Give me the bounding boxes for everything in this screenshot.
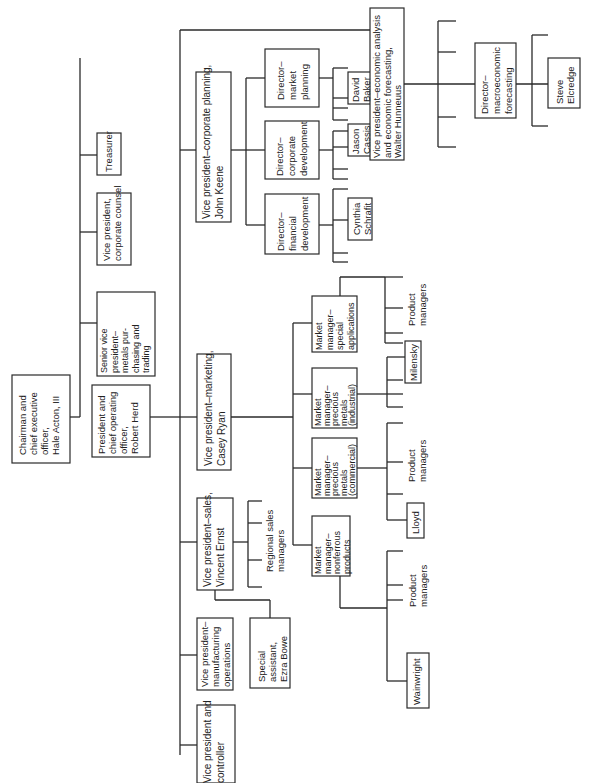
- label-dir-macro: Director– macroeconomic forecasting: [479, 47, 515, 114]
- label-dir-financial: Director– financial development: [275, 197, 311, 251]
- label-dir-corporate: Director– corporate development: [274, 122, 310, 176]
- label-vp-manufacturing: Vice president– manufacturing operations: [199, 622, 232, 687]
- label-president: President and chief operating officer, R…: [96, 392, 140, 454]
- label-mm-special: Market manager– special applications: [314, 302, 356, 350]
- label-svp-metals: Senior vice president– metals pur- chasi…: [99, 324, 152, 373]
- label-mm-industrial: Market manager– precious metals (industr…: [314, 384, 357, 426]
- label-regional-sales: Regional sales managers: [264, 510, 286, 572]
- label-mm-nonferrous: Market manager– nonferrous products: [314, 531, 352, 574]
- label-david: David Baker: [350, 77, 372, 102]
- label-vp-marketing: Vice president–marketing, Casey Ryan: [202, 351, 228, 466]
- label-vp-controller: Vice president and controller: [201, 700, 227, 783]
- label-special-assistant: Special assistant, Ezra Bowe: [256, 636, 289, 682]
- label-vp-planning: Vice president–corporate planning, John …: [200, 65, 226, 219]
- label-vp-economic: Vice president–economic analysis and eco…: [372, 15, 404, 158]
- label-vp-counsel: Vice president, corporate counsel: [101, 185, 123, 261]
- org-chart-lines: [0, 0, 591, 783]
- label-ceo: Chairman and chief executive officer, Ha…: [17, 392, 61, 455]
- label-steve: Steve Elcredge: [554, 67, 576, 105]
- label-treasurer: Treasurer: [103, 131, 114, 172]
- label-milensky: Milensky: [408, 344, 419, 381]
- label-pm-nonferrous: Product managers: [407, 565, 429, 607]
- label-dir-market: Director– market planning: [275, 61, 311, 100]
- label-vp-sales: Vice president–sales, Vincent Ernst: [201, 492, 227, 587]
- label-cynthia: Cynthia Schrafit: [351, 203, 373, 235]
- label-pm-commercial: Product managers: [406, 440, 428, 482]
- label-mm-commercial: Market manager– precious metals (commerc…: [314, 444, 357, 496]
- label-pm-special: Product managers: [406, 284, 428, 326]
- label-lloyd: Lloyd: [410, 511, 421, 534]
- label-wainwright: Wainwright: [411, 658, 422, 705]
- label-jason: Jason Cassis: [350, 125, 372, 154]
